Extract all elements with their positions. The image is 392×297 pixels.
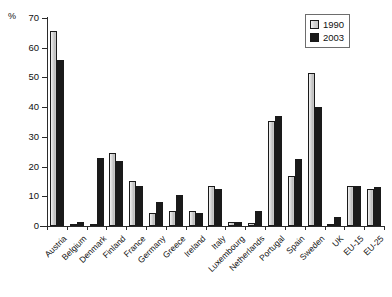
legend-item: 1990 [310, 18, 344, 31]
bar-group [126, 18, 146, 226]
bar-group [67, 18, 87, 226]
bar-group [364, 18, 384, 226]
legend-item: 2003 [310, 31, 344, 44]
bar-group [146, 18, 166, 226]
bar-2003-austria [57, 60, 64, 226]
legend-label-1990: 1990 [323, 20, 344, 30]
chart-legend: 1990 2003 [305, 14, 350, 48]
y-axis-tick-label: 0 [34, 220, 39, 231]
bar-group [47, 18, 67, 226]
x-axis-tick-mark [47, 226, 48, 230]
legend-label-2003: 2003 [323, 33, 344, 43]
plot-area [47, 18, 384, 226]
y-axis-tick-label: 60 [28, 42, 39, 53]
y-axis-unit-label: % [8, 11, 16, 21]
bar-group [265, 18, 285, 226]
bar-group [206, 18, 226, 226]
bar-1990-austria [50, 31, 57, 226]
y-axis-tick-label: 40 [28, 101, 39, 112]
y-axis-tick-label: 50 [28, 71, 39, 82]
y-axis-tick-label: 70 [28, 12, 39, 23]
bar-2003-eu-15 [354, 186, 361, 226]
legend-swatch-2003 [310, 33, 319, 42]
bar-chart: % 010203040506070 AustriaBelgiumDenmarkF… [0, 0, 392, 297]
bar-group [305, 18, 325, 226]
bar-group [186, 18, 206, 226]
y-axis-tick-label: 20 [28, 161, 39, 172]
bar-group [87, 18, 107, 226]
legend-swatch-1990 [310, 20, 319, 29]
bar-group [225, 18, 245, 226]
bar-group [166, 18, 186, 226]
y-axis-tick-label: 30 [28, 131, 39, 142]
bar-group [245, 18, 265, 226]
bar-group [325, 18, 345, 226]
bar-1990-sweden [308, 73, 315, 226]
y-axis-tick-label: 10 [28, 190, 39, 201]
bar-2003-luxembourg [235, 222, 242, 226]
bar-1990-eu-15 [347, 186, 354, 226]
bar-group [285, 18, 305, 226]
bar-group [106, 18, 126, 226]
bar-2003-sweden [315, 107, 322, 226]
bar-group [344, 18, 364, 226]
